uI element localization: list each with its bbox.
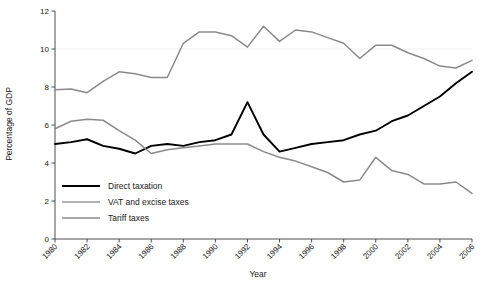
y-tick-label: 10 <box>40 45 49 54</box>
legend-label: Direct taxation <box>108 181 163 191</box>
y-tick-label: 12 <box>40 7 49 16</box>
legend-label: VAT and excise taxes <box>108 197 189 207</box>
line-chart: 024681012 198019821984198619881990199219… <box>0 0 487 284</box>
x-axis-title: Year <box>249 269 266 279</box>
y-tick-label: 4 <box>45 159 50 168</box>
y-tick-label: 8 <box>45 83 50 92</box>
y-tick-label: 0 <box>45 235 50 244</box>
y-tick-label: 2 <box>45 197 50 206</box>
legend-label: Tariff taxes <box>108 213 149 223</box>
y-tick-label: 6 <box>45 121 50 130</box>
chart-container: 024681012 198019821984198619881990199219… <box>0 0 487 284</box>
y-axis-title: Percentage of GDP <box>4 87 14 161</box>
